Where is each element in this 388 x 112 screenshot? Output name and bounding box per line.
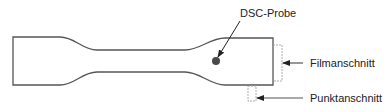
dsc-probe-dot [212, 57, 220, 65]
point-cut-box [248, 86, 256, 101]
probe-arrow [218, 21, 240, 57]
specimen-outline [13, 37, 273, 85]
film-cut-label: Filmanschnitt [310, 58, 375, 69]
probe-label: DSC-Probe [240, 8, 296, 19]
film-cut-box [273, 45, 282, 81]
diagram-canvas: DSC-Probe Filmanschnitt Punktanschnitt [0, 0, 388, 112]
point-cut-label: Punktanschnitt [310, 93, 382, 104]
